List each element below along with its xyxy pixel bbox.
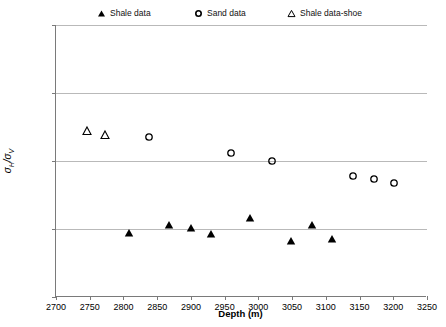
y-tick-mark [52, 25, 56, 26]
triangle-filled-icon [97, 9, 106, 18]
y-axis-title-denominator-sub: V [8, 149, 15, 154]
legend-label-shale-data-shoe: Shale data-shoe [300, 9, 362, 18]
y-tick-mark [52, 229, 56, 230]
data-point-triangle-filled [163, 219, 175, 231]
triangle-open-icon [287, 9, 296, 18]
data-point-triangle-filled [326, 233, 338, 245]
legend-item-sand-data: Sand data [194, 9, 246, 18]
legend-item-shale-data: Shale data [97, 9, 151, 18]
legend-label-sand-data: Sand data [207, 9, 246, 18]
legend-item-shale-data-shoe: Shale data-shoe [287, 9, 362, 18]
data-point-triangle-filled [185, 222, 197, 234]
data-point-circle-open [266, 155, 278, 167]
data-point-triangle-open [99, 129, 111, 141]
scatter-chart: Shale data Sand data Shale data-shoe 0.9… [0, 0, 446, 327]
x-tick-mark [225, 296, 226, 300]
y-tick-mark [52, 93, 56, 94]
x-tick-mark [258, 296, 259, 300]
x-tick-mark [326, 296, 327, 300]
data-point-triangle-open [81, 125, 93, 137]
data-point-triangle-filled [285, 235, 297, 247]
data-point-circle-open [388, 177, 400, 189]
y-gridline [56, 93, 427, 94]
y-axis-title-numerator-sub: H [8, 162, 15, 167]
x-axis-title: Depth (m) [55, 308, 426, 319]
data-point-triangle-filled [205, 228, 217, 240]
x-tick-mark [427, 296, 428, 300]
y-gridline [56, 229, 427, 230]
data-point-circle-open [368, 173, 380, 185]
x-tick-mark [90, 296, 91, 300]
circle-open-icon [194, 9, 203, 18]
x-tick-mark [157, 296, 158, 300]
y-tick-mark [52, 161, 56, 162]
data-point-circle-open [347, 170, 359, 182]
x-tick-mark [292, 296, 293, 300]
x-tick-mark [56, 296, 57, 300]
y-axis-title: σH/σV [2, 149, 15, 174]
data-point-triangle-filled [244, 212, 256, 224]
x-tick-mark [393, 296, 394, 300]
data-point-triangle-filled [306, 219, 318, 231]
y-gridline [56, 25, 427, 26]
x-tick-mark [360, 296, 361, 300]
legend-label-shale-data: Shale data [110, 9, 151, 18]
y-gridline [56, 161, 427, 162]
x-tick-mark [191, 296, 192, 300]
x-tick-mark [123, 296, 124, 300]
data-point-circle-open [143, 131, 155, 143]
chart-legend: Shale data Sand data Shale data-shoe [0, 4, 446, 22]
data-point-triangle-filled [123, 227, 135, 239]
plot-area: 0.9000.9501.0001.0501.100270027502800285… [55, 25, 426, 297]
data-point-circle-open [225, 147, 237, 159]
